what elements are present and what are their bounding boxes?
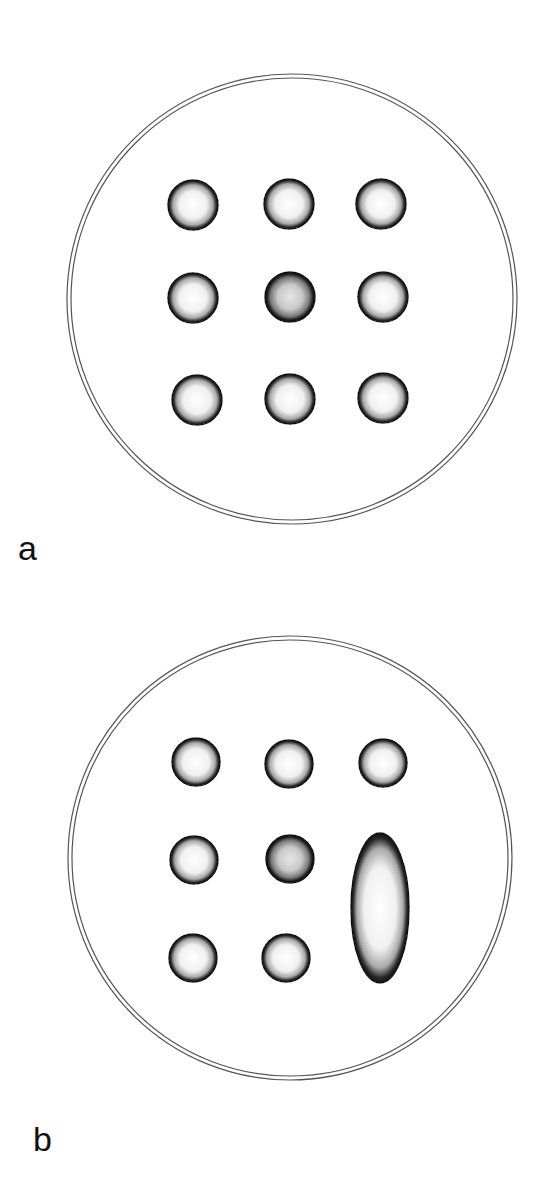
colony-spot <box>264 179 314 229</box>
colony-spot <box>262 934 310 982</box>
colony-spot <box>172 375 222 425</box>
panel-b-dish <box>68 636 512 1080</box>
colony-spot <box>265 374 315 424</box>
elongated-colony-spot <box>351 833 409 983</box>
panel-label-a: a <box>18 531 37 565</box>
colony-spot <box>359 739 407 787</box>
colony-spot <box>170 836 218 884</box>
panel-label-b: b <box>33 1122 52 1156</box>
colony-spot <box>358 272 408 322</box>
colony-spot <box>168 180 218 230</box>
colony-spot <box>265 272 315 322</box>
colony-spot <box>266 835 314 883</box>
colony-spot <box>172 738 220 786</box>
colony-spot <box>358 373 408 423</box>
colony-spot <box>168 273 218 323</box>
colony-spot <box>265 740 313 788</box>
panel-a-dish <box>67 74 517 524</box>
figure-canvas <box>0 0 541 1194</box>
colony-spot <box>356 179 406 229</box>
colony-spot <box>169 934 217 982</box>
